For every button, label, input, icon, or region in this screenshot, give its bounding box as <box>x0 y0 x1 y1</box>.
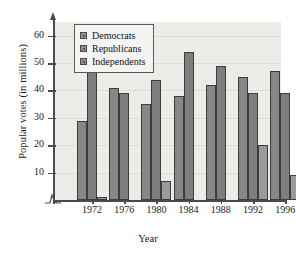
legend: Democrats Republicans Independents <box>74 24 154 73</box>
x-axis-tick-label: 1996 <box>265 204 296 215</box>
legend-item-democrats: Democrats <box>80 29 145 42</box>
bar <box>174 96 184 200</box>
bar <box>141 104 151 200</box>
bar <box>109 88 119 200</box>
bar <box>248 93 258 200</box>
bar <box>290 175 296 200</box>
y-axis-arrow-icon <box>50 12 56 20</box>
bar-chart: 102030405060 197219761980198419881992199… <box>0 0 296 254</box>
legend-swatch-icon <box>80 58 87 65</box>
x-axis-label: Year <box>0 233 296 244</box>
x-axis-line <box>53 200 285 202</box>
bar <box>206 85 216 200</box>
bar <box>119 93 129 200</box>
bar <box>238 77 248 200</box>
bar <box>97 197 107 200</box>
bar <box>77 121 87 200</box>
bar <box>87 71 97 200</box>
legend-label: Democrats <box>92 29 135 42</box>
y-axis-label: Popular votes (in millions) <box>17 17 28 187</box>
bar <box>184 52 194 200</box>
bar <box>280 93 290 200</box>
legend-label: Republicans <box>92 42 141 55</box>
legend-swatch-icon <box>80 32 87 39</box>
bar <box>216 66 226 200</box>
legend-item-independents: Independents <box>80 55 145 68</box>
bar <box>161 181 171 200</box>
bar <box>270 71 280 200</box>
bar <box>258 145 268 200</box>
bar <box>151 80 161 200</box>
legend-swatch-icon <box>80 45 87 52</box>
legend-label: Independents <box>92 55 145 68</box>
legend-item-republicans: Republicans <box>80 42 145 55</box>
